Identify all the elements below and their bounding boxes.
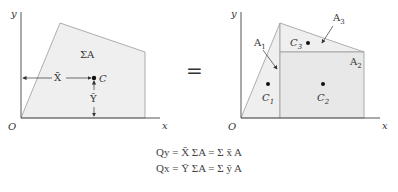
centroid-dot bbox=[92, 76, 96, 80]
equation-qx: Qx = Ȳ ΣA = Σ ȳ A bbox=[0, 162, 398, 174]
ybar-label: Ȳ bbox=[89, 93, 97, 104]
y-axis-label: y bbox=[230, 8, 237, 19]
area-a3-label: A3 bbox=[332, 12, 345, 26]
area-label: ΣA bbox=[80, 49, 95, 60]
xbar-label: X̄ bbox=[54, 72, 62, 83]
equation-qy: Qy = X̄ ΣA = Σ x̄ A bbox=[0, 146, 398, 158]
x-axis-label: x bbox=[162, 120, 168, 131]
centroid-c3-dot bbox=[306, 41, 310, 45]
area-a1-label: A1 bbox=[253, 37, 266, 51]
centroid-c1-dot bbox=[266, 82, 270, 86]
centroid-c2-dot bbox=[321, 82, 325, 86]
right-panel: y x O A1 A3 A2 C1 C2 C3 bbox=[228, 8, 388, 132]
equals-sign: = bbox=[186, 59, 203, 83]
composite-area-shape bbox=[21, 23, 145, 118]
y-axis-label: y bbox=[10, 8, 17, 19]
left-panel: y x O ΣA X̄ C Ȳ bbox=[8, 8, 168, 132]
origin-label: O bbox=[228, 121, 236, 132]
origin-label: O bbox=[8, 121, 16, 132]
centroid-label: C bbox=[99, 73, 107, 84]
x-axis-label: x bbox=[382, 120, 388, 131]
